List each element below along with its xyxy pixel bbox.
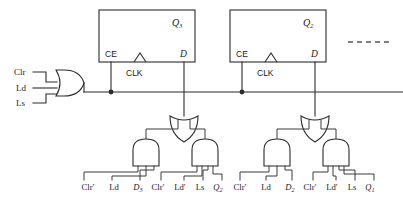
ff-q3-clk-label: CLK <box>126 68 143 78</box>
term-q2: Q2 <box>213 182 222 193</box>
wire-d2-load-in-ld <box>266 166 277 180</box>
logic-diagram-canvas: Clr Ld Ls Q3 CE D CLK <box>0 0 403 202</box>
wire-d3-shift-in-ldn <box>184 166 202 180</box>
d3-and-gate-shift <box>192 139 218 166</box>
d3-and-gate-load <box>133 139 159 166</box>
term-clr-n-1: Clr′ <box>82 182 95 192</box>
term-ls-2: Ls <box>348 182 357 192</box>
term-ld-n-1: Ld′ <box>174 182 186 192</box>
wire-d2-shift-in-ls <box>339 166 355 180</box>
wire-ls <box>33 94 57 103</box>
ff-q2: Q2 CE D CLK <box>230 10 326 116</box>
circuit-schematic: Clr Ld Ls Q3 CE D CLK <box>0 0 403 202</box>
d3-logic <box>84 116 222 180</box>
ff-q3: Q3 CE D CLK <box>99 10 195 116</box>
wire-d3-load-in-clr <box>84 166 138 180</box>
control-input-wires <box>33 72 57 103</box>
wire-d2-load-in-d2 <box>285 166 292 180</box>
wire-d3-load-in-ld <box>112 166 146 180</box>
ff-q3-d-label: D <box>179 49 187 59</box>
term-ld-1: Ld <box>109 182 119 192</box>
term-ls-1: Ls <box>196 182 205 192</box>
term-d2: D2 <box>284 182 294 193</box>
wire-d3-load-in-d3 <box>140 166 154 180</box>
wire-d3-shift-in-clr <box>161 166 197 180</box>
input-label-clr: Clr <box>14 67 26 77</box>
term-clr-n-3: Clr′ <box>234 182 247 192</box>
terminal-labels: Clr′LdD3Clr′Ld′LsQ2Clr′LdD2Clr′Ld′LsQ1 <box>82 182 375 193</box>
d2-logic <box>240 116 374 180</box>
term-ld-2: Ld <box>261 182 271 192</box>
wire-d3-shift-in-ls <box>203 166 208 180</box>
d2-and-gate-load <box>264 139 290 166</box>
input-label-ls: Ls <box>16 98 25 108</box>
ff-q2-ce-label: CE <box>236 49 248 59</box>
ff-q3-ce-label: CE <box>105 49 117 59</box>
wire-d3-shift-in-q2 <box>213 166 222 180</box>
term-d3: D3 <box>132 182 142 193</box>
term-q1: Q1 <box>365 182 374 193</box>
ff-q2-d-label: D <box>310 49 318 59</box>
term-ld-n-2: Ld′ <box>326 182 338 192</box>
wire-d2-shift-in-ldn <box>333 166 336 180</box>
junction-ff-q2-ce <box>240 90 245 95</box>
wire-d2-shift-in-clr <box>313 166 328 180</box>
term-clr-n-4: Clr′ <box>304 182 317 192</box>
ce-or-gate <box>56 70 84 96</box>
term-clr-n-2: Clr′ <box>152 182 165 192</box>
wire-clr <box>33 72 57 82</box>
d2-and-gate-shift <box>323 139 349 166</box>
ff-q2-clk-label: CLK <box>257 68 274 78</box>
wire-d2-load-in-clr <box>240 166 269 180</box>
wire-d2-shift-in-q1 <box>344 166 374 180</box>
junction-ff-q3-ce <box>109 90 114 95</box>
input-label-ld: Ld <box>16 83 26 93</box>
